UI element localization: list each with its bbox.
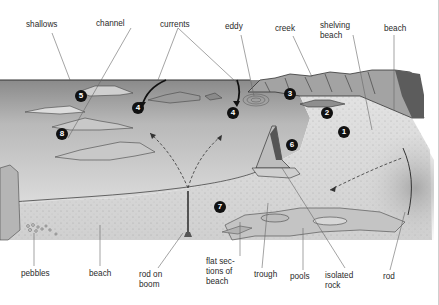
label-beach-top: beach [384,24,406,34]
coastal-fishing-diagram: shallows channel currents eddy creek she… [0,0,439,305]
label-rod-on-boom: rod on boom [139,270,162,290]
label-isolated-rock: isolated rock [325,271,353,291]
marker-4-left: 4 [132,102,144,114]
marker-7: 7 [214,201,226,213]
label-trough: trough [254,270,277,280]
label-pebbles: pebbles [21,269,50,279]
label-beach-bottom: beach [89,269,111,279]
marker-4-right: 4 [227,107,239,119]
marker-8: 8 [56,128,68,140]
label-shelving-beach: shelving beach [320,21,350,41]
label-currents: currents [160,20,190,30]
marker-5: 5 [75,90,87,102]
label-shallows: shallows [26,20,57,30]
label-eddy: eddy [225,22,243,32]
marker-1: 1 [338,126,350,138]
label-rod: rod [383,272,395,282]
label-flat-sections-of-beach: flat sec- tions of beach [206,257,235,287]
label-pools: pools [290,272,310,282]
label-creek: creek [275,24,295,34]
marker-3: 3 [284,88,296,100]
marker-2: 2 [321,107,333,119]
left-rock-pillar [0,165,20,240]
label-channel: channel [96,19,125,29]
marker-6: 6 [286,139,298,151]
